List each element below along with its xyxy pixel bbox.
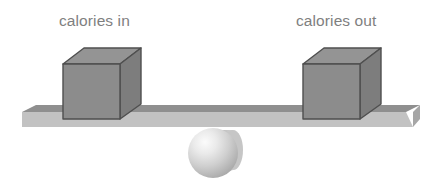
beam-right-end [413,105,420,127]
cube-calories-in [63,48,141,119]
diagram-canvas: calories in calories out [0,0,437,182]
label-calories-in: calories in [59,13,130,29]
fulcrum-sphere [188,128,238,178]
cube-calories-out [303,48,381,119]
label-calories-out: calories out [296,13,376,29]
